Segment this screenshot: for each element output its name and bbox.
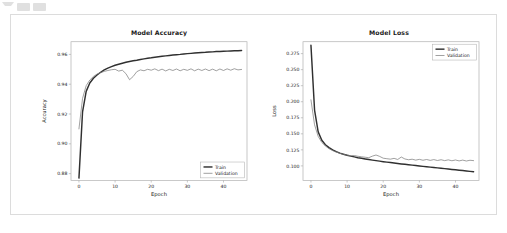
y-tick-label: 0.90 [57,142,67,147]
chart-legend: TrainValidation [433,44,477,60]
y-tick-label: 0.125 [286,148,299,153]
toolbar-button-icon[interactable] [33,3,46,11]
y-tick-label: 0.250 [286,67,299,72]
y-tick-label: 0.200 [286,99,299,104]
y-tick-label: 0.150 [286,132,299,137]
legend-label: Train [214,165,226,170]
x-tick-label: 20 [148,184,154,189]
accuracy-plot-svg: 0102030400.880.900.920.940.96EpochAccura… [25,15,261,214]
y-tick-label: 0.100 [286,164,299,169]
x-axis-label: Epoch [151,191,167,198]
screenshot-root: Model Accuracy 0102030400.880.900.920.94… [0,0,507,233]
y-axis-label: Loss [271,105,277,117]
x-tick-label: 30 [184,184,190,189]
x-tick-label: 0 [309,184,312,189]
chart-legend: TrainValidation [201,162,245,178]
y-tick-label: 0.94 [57,82,67,87]
y-tick-label: 0.175 [286,115,299,120]
x-tick-label: 20 [380,184,386,189]
x-axis-label: Epoch [383,191,399,198]
series-line-validation [79,69,242,129]
x-tick-label: 40 [221,184,227,189]
x-tick-label: 0 [77,184,80,189]
loss-plot-svg: 0102030400.1000.1250.1500.1750.2000.2250… [261,15,497,214]
chart-model-loss: Model Loss 0102030400.1000.1250.1500.175… [261,15,497,214]
chart-model-accuracy: Model Accuracy 0102030400.880.900.920.94… [25,15,261,214]
series-line-train [311,45,474,171]
y-tick-label: 0.88 [57,171,67,176]
y-axis-label: Accuracy [41,99,48,122]
legend-label: Validation [447,53,470,58]
y-tick-label: 0.92 [57,112,67,117]
x-tick-label: 10 [344,184,350,189]
series-line-validation [311,100,474,161]
x-tick-label: 40 [453,184,459,189]
caret-down-icon[interactable] [2,2,14,12]
matplotlib-figure: Model Accuracy 0102030400.880.900.920.94… [11,15,496,214]
y-tick-label: 0.96 [57,52,67,57]
y-tick-label: 0.225 [286,83,299,88]
x-tick-label: 30 [416,184,422,189]
notebook-output-cell: Model Accuracy 0102030400.880.900.920.94… [10,14,497,215]
notebook-toolbar[interactable] [0,0,62,13]
toolbar-button-icon[interactable] [17,3,30,11]
x-tick-label: 10 [112,184,118,189]
legend-label: Validation [215,171,238,176]
y-tick-label: 0.275 [286,51,299,56]
legend-label: Train [446,47,458,52]
